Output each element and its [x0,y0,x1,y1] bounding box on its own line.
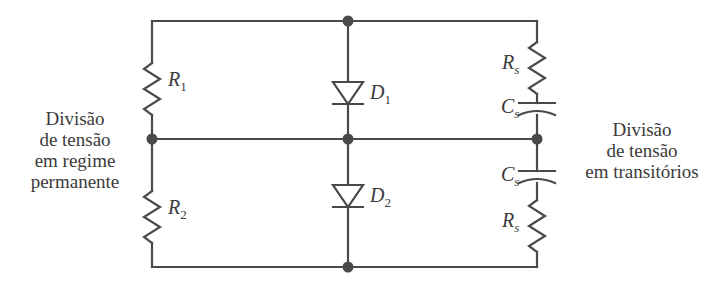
label-rs-top: Rs [502,51,519,78]
label-r2-letter: R [168,196,180,218]
caption-right-line-1: Divisão [568,119,716,140]
label-cs-bottom-letter: C [501,163,514,185]
junction-dot-top-center [343,16,354,27]
caption-left-line-4: permanente [2,171,148,192]
label-cs-bottom-sub: s [514,174,519,189]
label-cs-top-sub: s [514,106,519,121]
junction-dot-bottom-center [343,262,354,273]
label-rs-bottom-letter: R [502,209,514,231]
diode-d1-symbol [333,82,363,104]
caption-steady-state: Divisão de tensão em regime permanente [2,108,148,192]
label-rs-bottom: Rs [502,209,519,236]
capacitor-cs-top-symbol [519,103,555,115]
junction-dot-mid-right [532,134,543,145]
resistor-rs-top-symbol [529,42,545,94]
caption-left-line-1: Divisão [2,108,148,129]
label-r1: R1 [168,68,187,95]
resistor-rs-bottom-symbol [529,200,545,252]
label-rs-bottom-sub: s [514,220,519,235]
label-cs-bottom: Cs [501,163,519,190]
label-cs-top-letter: C [501,95,514,117]
label-r1-sub: 1 [180,79,187,94]
diode-d2-symbol [333,185,363,207]
label-r2-sub: 2 [180,207,187,222]
resistor-r2-symbol [144,191,160,243]
caption-right-line-2: de tensão [568,140,716,161]
label-d1: D1 [370,81,391,108]
label-d1-letter: D [370,81,384,103]
label-cs-top: Cs [501,95,519,122]
caption-transient: Divisão de tensão em transitórios [568,119,716,182]
label-d1-sub: 1 [384,92,391,107]
label-rs-top-sub: s [514,62,519,77]
label-d2-sub: 2 [384,195,391,210]
junction-dot-mid-center [343,134,354,145]
label-rs-top-letter: R [502,51,514,73]
caption-left-line-2: de tensão [2,129,148,150]
circuit-diagram-figure: Divisão de tensão em regime permanente D… [0,0,716,288]
caption-right-line-3: em transitórios [568,161,716,182]
label-r2: R2 [168,196,187,223]
label-d2: D2 [370,184,391,211]
caption-left-line-3: em regime [2,150,148,171]
label-r1-letter: R [168,68,180,90]
label-d2-letter: D [370,184,384,206]
junction-dot-mid-left [147,134,158,145]
capacitor-cs-bottom-symbol [519,171,555,183]
